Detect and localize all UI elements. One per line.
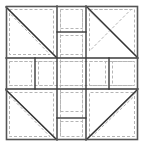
quilt-block-svg [0,0,145,149]
quilt-block-diagram [0,0,145,149]
